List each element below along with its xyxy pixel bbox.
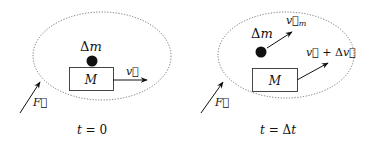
panel-after: Δm v⃗m M v⃗ + Δv⃗ F⃗ t = Δt: [201, 12, 356, 137]
time-caption: t = Δt: [260, 123, 296, 137]
force-label: F⃗: [32, 96, 47, 109]
mass-label: Δm: [251, 26, 273, 41]
mass-velocity-label: v⃗m: [286, 14, 307, 28]
mass-dot: [87, 56, 98, 67]
mass-label: Δm: [80, 39, 102, 54]
time-caption: t = 0: [77, 123, 107, 137]
velocity-label: v⃗: [126, 65, 139, 78]
panel-initial: Δm M v⃗ F⃗ t = 0: [20, 12, 171, 137]
body-label: M: [84, 73, 98, 87]
force-label: F⃗: [214, 96, 229, 109]
velocity-label: v⃗ + Δv⃗: [306, 46, 356, 59]
mass-dot: [256, 47, 267, 58]
momentum-diagram: Δm M v⃗ F⃗ t = 0 Δm v⃗m M v⃗ + Δv⃗ F⃗ t …: [0, 0, 367, 153]
body-label: M: [268, 74, 282, 88]
velocity-arrow: [297, 63, 328, 80]
